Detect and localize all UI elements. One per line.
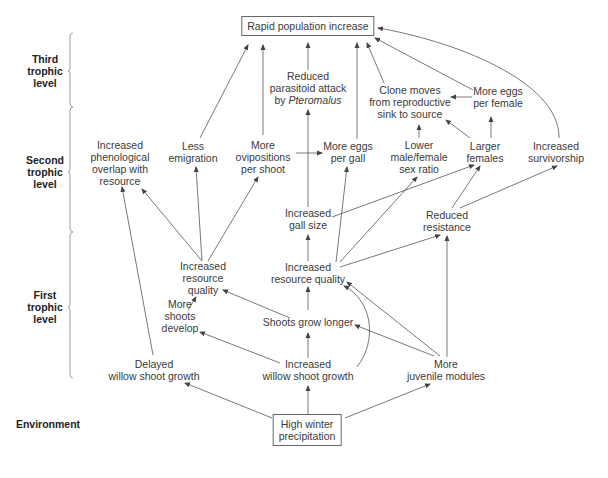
level-label-second: Secondtrophiclevel xyxy=(26,154,64,190)
node-rapid: Rapid population increase xyxy=(241,16,374,36)
arrow-high_precip-to-juvenile_modules xyxy=(345,384,430,418)
node-delayed-growth: Delayedwillow shoot growth xyxy=(108,358,199,382)
arrow-larger_females-to-clone_moves xyxy=(446,120,470,138)
arrow-resource_quality_left-to-phenological xyxy=(142,189,202,261)
node-increased-growth: Increasedwillow shoot growth xyxy=(262,358,353,382)
arrow-shoots_longer-to-resource_quality_left xyxy=(223,290,290,318)
node-reduced-resistance: Reducedresistance xyxy=(423,209,471,233)
node-resource-quality-left: Increasedresourcequality xyxy=(180,260,226,296)
arrow-resource_quality_main-to-lower_sex_ratio xyxy=(340,177,417,262)
node-more-ovipositions: Moreovipositionsper shoot xyxy=(236,139,291,175)
level-label-environment: Environment xyxy=(16,418,80,430)
node-phenological: Increasedphenologicaloverlap withresourc… xyxy=(91,139,150,187)
arrow-increased_survivorship-to-rapid xyxy=(378,28,559,138)
node-more-shoots: Moreshootsdevelop xyxy=(162,298,199,334)
arrow-juvenile_modules-to-resource_quality_main xyxy=(347,282,440,356)
node-clone-moves: Clone movesfrom reproductivesink to sour… xyxy=(369,84,451,120)
arrow-high_precip-to-delayed_growth xyxy=(185,383,272,418)
node-less-emigration: Lessemigration xyxy=(168,140,217,164)
arrow-clone_moves-to-rapid xyxy=(367,43,384,83)
arrow-reduced_resistance-to-increased_survivorship xyxy=(460,166,557,208)
arrow-juvenile_modules-to-shoots_longer xyxy=(355,325,434,356)
arrow-resource_quality_main-to-reduced_resistance xyxy=(340,235,440,267)
arrow-reduced_resistance-to-larger_females xyxy=(452,166,480,208)
trophic-cascade-diagram: ThirdtrophiclevelSecondtrophiclevelFirst… xyxy=(0,0,608,478)
bracket-third xyxy=(68,33,73,107)
node-high-precip: High winterprecipitation xyxy=(273,414,342,446)
arrow-resource_quality_left-to-more_ovipositions xyxy=(208,177,258,261)
arrow-more_eggs_female-to-rapid xyxy=(375,38,473,90)
level-brackets xyxy=(68,33,73,378)
bracket-first xyxy=(68,232,73,378)
node-more-eggs-gall: More eggsper gall xyxy=(323,140,373,164)
node-reduced-parasitoid: Reducedparasitoid attackby Pteromalus xyxy=(270,70,346,106)
node-shoots-longer: Shoots grow longer xyxy=(263,316,353,328)
node-larger-females: Largerfemales xyxy=(467,140,504,164)
arrow-resource_quality_main-to-more_eggs_gall xyxy=(336,167,347,262)
node-juvenile-modules: Morejuvenile modules xyxy=(407,358,485,382)
node-lower-sex-ratio: Lowermale/femalesex ratio xyxy=(390,139,447,175)
arrow-resource_quality_left-to-less_emigration xyxy=(196,167,202,261)
arrow-less_emigration-to-rapid xyxy=(200,45,248,138)
bracket-second xyxy=(68,107,73,232)
node-resource-quality-main: Increasedresource quality xyxy=(271,261,345,285)
level-label-third: Thirdtrophiclevel xyxy=(27,53,63,89)
node-more-eggs-female: More eggsper female xyxy=(473,85,523,109)
node-increased-gall-size: Increasedgall size xyxy=(285,207,331,231)
arrow-delayed_growth-to-phenological xyxy=(122,187,153,355)
level-label-first: Firsttrophiclevel xyxy=(27,289,63,325)
node-increased-survivorship: Increasedsurvivorship xyxy=(528,140,584,164)
